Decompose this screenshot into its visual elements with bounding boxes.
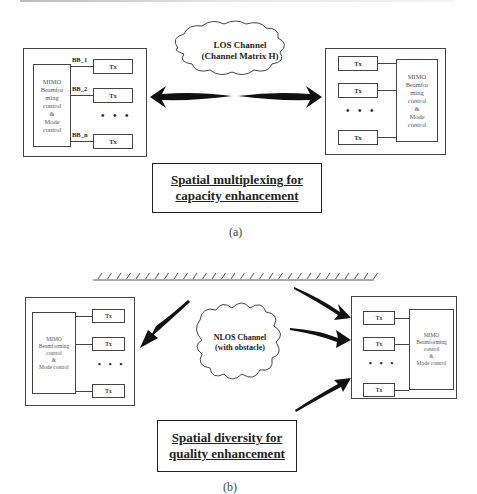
- caption-line: Spatial diversity for: [172, 430, 283, 446]
- tx-block: Tx: [92, 337, 125, 351]
- mimo-control-block: MIMO Beamfor ming control & Mode control: [33, 64, 71, 147]
- wire: [71, 141, 93, 142]
- tx-block: Tx: [338, 83, 378, 98]
- ellipsis: • • •: [98, 360, 125, 369]
- wire: [395, 318, 409, 319]
- tx-block: Tx: [338, 130, 378, 145]
- bb-label: BB_2: [72, 85, 87, 92]
- tx-block: Tx: [338, 56, 378, 71]
- subfigure-label-a: (a): [229, 225, 242, 240]
- arrow-reflect-3-icon: [295, 378, 351, 412]
- los-channel-label: LOS Channel (Channel Matrix H): [180, 40, 300, 62]
- obstacle-hatch-icon: [93, 273, 378, 280]
- wire: [378, 63, 396, 64]
- bb-label: BB_n: [72, 131, 88, 138]
- caption-line: capacity enhancement: [175, 188, 298, 204]
- panel-a-left-station: MIMO Beamfor ming control & Mode control…: [23, 48, 147, 157]
- wire: [76, 344, 92, 345]
- caption-box-a: Spatial multiplexing for capacity enhanc…: [152, 163, 322, 213]
- wire: [395, 390, 409, 391]
- arrow-reflect-2-icon: [290, 328, 351, 348]
- tx-block: Tx: [363, 311, 395, 325]
- arrow-down-left-icon: [140, 300, 190, 348]
- caption-line: Spatial multiplexing for: [171, 172, 303, 188]
- nlos-channel-label: NLOS Channel (with obstacle): [197, 333, 283, 353]
- ellipsis: • • •: [101, 110, 132, 121]
- tx-block: Tx: [93, 134, 133, 149]
- ellipsis: • • •: [346, 105, 377, 116]
- wire: [76, 316, 92, 317]
- wire: [378, 137, 396, 138]
- wire: [71, 66, 93, 67]
- wire: [71, 95, 93, 96]
- mimo-control-block: MIMO Beamforming control & Mode control: [409, 309, 454, 390]
- caption-box-b: Spatial diversity for quality enhancemen…: [157, 420, 297, 472]
- panel-b-right-station: Tx Tx Tx MIMO Beamforming control & Mode…: [351, 296, 457, 399]
- mimo-control-block: MIMO Beamfor ming control & Mode control: [396, 59, 438, 142]
- tx-block: Tx: [92, 384, 125, 398]
- ellipsis: • • •: [369, 359, 396, 368]
- arrow-right-icon: [238, 86, 322, 108]
- tx-block: Tx: [92, 309, 125, 323]
- wire: [76, 391, 92, 392]
- tx-block: Tx: [363, 337, 395, 351]
- tx-block: Tx: [93, 88, 133, 103]
- tx-block: Tx: [363, 383, 395, 397]
- wire: [378, 90, 396, 91]
- wire: [395, 344, 409, 345]
- panel-a-right-station: Tx Tx Tx MIMO Beamfor ming control & Mod…: [325, 48, 446, 155]
- arrow-reflect-1-icon: [294, 287, 351, 320]
- bb-label: BB_1: [72, 56, 87, 63]
- subfigure-label-b: (b): [223, 480, 237, 494]
- panel-b-left-station: MIMO Beamforming control & Mode control …: [25, 297, 135, 406]
- mimo-control-block: MIMO Beamforming control & Mode control: [32, 312, 76, 394]
- arrow-left-icon: [150, 86, 232, 108]
- caption-line: quality enhancement: [169, 446, 285, 462]
- tx-block: Tx: [93, 59, 133, 74]
